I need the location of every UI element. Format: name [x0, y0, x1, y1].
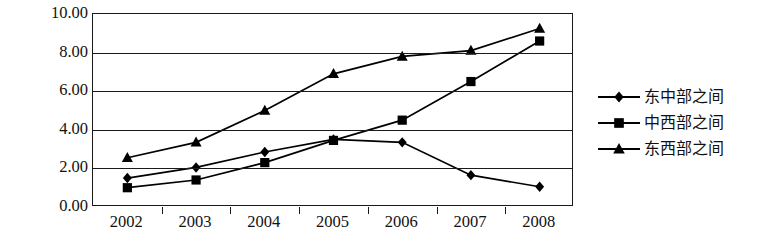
diamond-marker — [123, 173, 132, 183]
diamond-marker — [398, 137, 407, 147]
legend-label: 东西部之间 — [644, 141, 724, 157]
square-marker — [535, 36, 544, 45]
square-marker — [614, 118, 624, 128]
diamond-marker — [614, 92, 623, 103]
x-axis-tick — [437, 207, 438, 214]
square-marker — [260, 158, 269, 167]
series-layer — [93, 14, 574, 207]
y-axis-tick-label: 4.00 — [8, 121, 88, 138]
square-marker — [466, 77, 475, 86]
plot-area — [92, 13, 573, 206]
y-axis-tick-label: 10.00 — [8, 5, 88, 22]
x-axis-tick — [162, 207, 163, 214]
x-axis-tick-label: 2006 — [385, 214, 418, 231]
legend-marker-triangle-icon — [596, 138, 642, 160]
legend-marker-diamond-icon — [596, 86, 642, 108]
legend-label: 东中部之间 — [644, 89, 724, 105]
series-line — [127, 41, 539, 188]
line-chart: 0.002.004.006.008.0010.00 东中部之间中西部之间东西部之… — [0, 0, 766, 242]
x-axis-tick-label: 2008 — [522, 214, 555, 231]
y-axis: 0.002.004.006.008.0010.00 — [0, 0, 88, 242]
x-axis-tick-label: 2005 — [316, 214, 349, 231]
legend-item[interactable]: 中西部之间 — [596, 110, 766, 136]
square-marker — [329, 136, 338, 145]
x-axis-tick — [505, 207, 506, 214]
square-marker — [123, 183, 132, 192]
x-axis-tick-label: 2002 — [110, 214, 143, 231]
x-axis-tick-label: 2004 — [247, 214, 280, 231]
y-axis-tick-label: 0.00 — [8, 198, 88, 215]
legend-label: 中西部之间 — [644, 115, 724, 131]
x-axis-tick — [299, 207, 300, 214]
x-axis-tick-label: 2007 — [453, 214, 486, 231]
triangle-marker — [534, 23, 545, 33]
triangle-marker — [259, 105, 270, 115]
square-marker — [398, 116, 407, 125]
series-line — [127, 139, 539, 186]
legend: 东中部之间中西部之间东西部之间 — [596, 84, 766, 162]
gridline — [93, 91, 572, 92]
diamond-marker — [535, 182, 544, 192]
legend-item[interactable]: 东中部之间 — [596, 84, 766, 110]
legend-item[interactable]: 东西部之间 — [596, 136, 766, 162]
legend-marker-square-icon — [596, 112, 642, 134]
diamond-marker — [260, 147, 269, 157]
gridline — [93, 168, 572, 169]
y-axis-tick-label: 8.00 — [8, 43, 88, 60]
square-marker — [191, 175, 200, 184]
y-axis-tick-label: 6.00 — [8, 82, 88, 99]
y-axis-tick-label: 2.00 — [8, 159, 88, 176]
gridline — [93, 53, 572, 54]
x-axis-tick-label: 2003 — [179, 214, 212, 231]
triangle-marker — [191, 137, 202, 147]
x-axis-tick — [368, 207, 369, 214]
diamond-marker — [466, 170, 475, 180]
gridline — [93, 130, 572, 131]
x-axis-tick — [230, 207, 231, 214]
